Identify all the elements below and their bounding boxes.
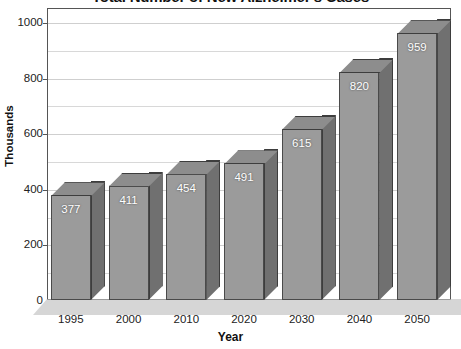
- x-axis-tick-label: 2050: [404, 313, 430, 325]
- chart-container: Total Number of New Alzheimer's Cases Th…: [0, 0, 461, 349]
- x-axis-tick-labels: 1995200020102020203020402050: [0, 0, 461, 349]
- x-axis-tick-label: 2040: [347, 313, 373, 325]
- x-axis-tick-label: 2010: [173, 313, 199, 325]
- x-axis-tick-label: 2000: [116, 313, 142, 325]
- x-axis-title: Year: [0, 330, 461, 344]
- x-axis-tick-label: 2020: [231, 313, 257, 325]
- x-axis-tick-label: 2030: [289, 313, 315, 325]
- x-axis-tick-label: 1995: [58, 313, 84, 325]
